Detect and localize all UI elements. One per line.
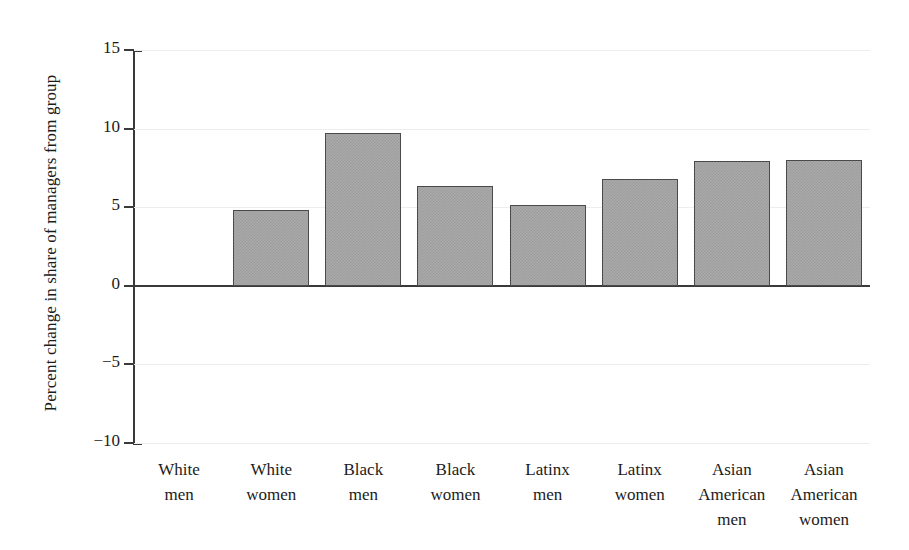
x-axis-label-line: Asian	[686, 457, 778, 482]
y-axis-tick	[124, 128, 134, 130]
x-axis-label-line: White	[225, 457, 317, 482]
gridline	[133, 50, 870, 51]
x-axis-label-black-men: Blackmen	[317, 457, 409, 507]
x-axis-label-latinx-women: Latinxwomen	[594, 457, 686, 507]
y-axis-tick-label: 15	[103, 38, 120, 58]
x-axis-label-line: men	[502, 482, 594, 507]
gridline	[133, 443, 870, 444]
y-axis-tick	[124, 363, 134, 365]
bar-black-men	[325, 133, 401, 286]
y-axis-tick-label: −5	[102, 352, 120, 372]
x-axis-label-black-women: Blackwomen	[409, 457, 501, 507]
x-axis-label-line: women	[409, 482, 501, 507]
x-axis-label-line: women	[778, 507, 870, 532]
y-axis-tick-label: 10	[103, 117, 120, 137]
x-axis-label-line: American	[778, 482, 870, 507]
x-axis-label-line: American	[686, 482, 778, 507]
bar-latinx-men	[510, 205, 586, 286]
x-axis-label-line: women	[225, 482, 317, 507]
x-axis-label-line: men	[133, 482, 225, 507]
y-axis-title: Percent change in share of managers from…	[41, 28, 63, 458]
y-axis-tick-label: −10	[93, 431, 120, 451]
bar-latinx-women	[602, 179, 678, 286]
x-axis-label-line: women	[594, 482, 686, 507]
gridline	[133, 129, 870, 130]
y-axis-tick	[124, 285, 134, 287]
x-axis-label-line: men	[317, 482, 409, 507]
y-axis-tick-label: 5	[112, 195, 121, 215]
gridline	[133, 364, 870, 365]
x-axis-label-line: White	[133, 457, 225, 482]
plot-area: 151050−5−10	[133, 50, 870, 443]
x-axis-label-line: Latinx	[502, 457, 594, 482]
x-axis-label-line: Black	[409, 457, 501, 482]
x-axis-label-white-women: Whitewomen	[225, 457, 317, 507]
y-axis-tick	[124, 442, 134, 444]
x-axis-label-asian-american-women: AsianAmericanwomen	[778, 457, 870, 532]
bar-chart: Percent change in share of managers from…	[0, 0, 909, 550]
bar-black-women	[417, 186, 493, 286]
bar-white-women	[233, 210, 309, 286]
x-axis-label-latinx-men: Latinxmen	[502, 457, 594, 507]
x-axis-label-line: Black	[317, 457, 409, 482]
bar-asian-american-men	[694, 161, 770, 286]
y-axis-tick-label: 0	[112, 274, 121, 294]
y-axis-tick	[124, 49, 134, 51]
x-axis-label-white-men: Whitemen	[133, 457, 225, 507]
bar-asian-american-women	[786, 160, 862, 286]
y-axis-tick	[124, 206, 134, 208]
x-axis-label-line: men	[686, 507, 778, 532]
x-axis-label-line: Asian	[778, 457, 870, 482]
x-axis-label-asian-american-men: AsianAmericanmen	[686, 457, 778, 532]
x-axis-label-line: Latinx	[594, 457, 686, 482]
